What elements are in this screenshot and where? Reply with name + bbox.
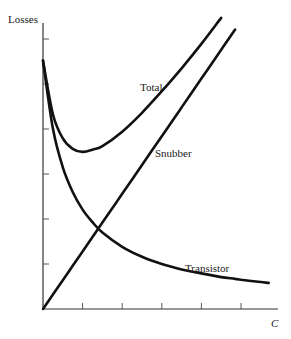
x-axis-label: C	[271, 318, 278, 329]
total-curve-label: Total	[140, 82, 162, 93]
total-curve	[43, 18, 221, 152]
snubber-line-label: Snubber	[155, 148, 192, 159]
transistor-curve	[43, 61, 269, 283]
transistor-curve-label: Transistor	[185, 263, 229, 274]
x-ticks	[83, 303, 241, 309]
y-axis-label: Losses	[8, 14, 38, 25]
series-lines	[43, 18, 269, 309]
losses-vs-capacitance-chart	[0, 0, 291, 339]
axes	[43, 23, 278, 309]
